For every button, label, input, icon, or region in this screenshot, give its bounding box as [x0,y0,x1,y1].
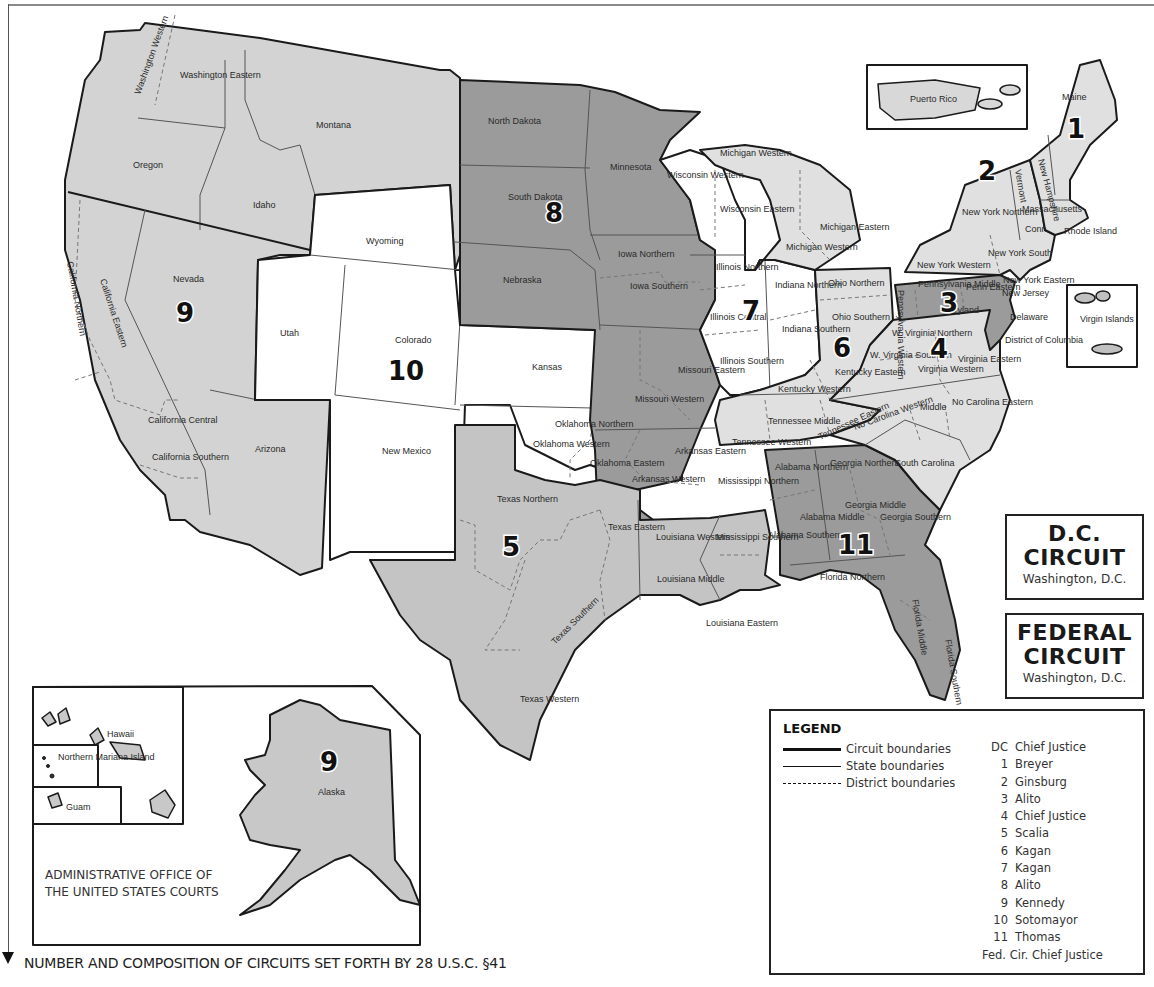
label-oh-n: Ohio Northern [828,278,885,288]
label-ca-c: California Central [148,415,218,425]
label-kansas: Kansas [532,362,563,372]
label-pr: Puerto Rico [910,94,957,104]
publisher-credit: ADMINISTRATIVE OFFICE OF THE UNITED STAT… [45,867,219,901]
label-ca-s: California Southern [152,452,229,462]
label-montana: Montana [316,120,351,130]
label-nebraska: Nebraska [503,275,542,285]
label-mi-w: Michigan Western [720,148,792,158]
label-nd: North Dakota [488,116,541,126]
label-ia-n: Iowa Northern [618,249,675,259]
label-fl-n: Florida Northern [820,572,885,582]
label-nevada: Nevada [173,274,204,284]
label-mo-w: Missouri Western [635,394,704,404]
label-sc: South Carolina [895,458,955,468]
label-mi-w2: Michigan Western [786,242,858,252]
legend-line-label: District boundaries [846,776,955,790]
federal-circuit-title-2: CIRCUIT [1007,645,1142,669]
dc-circuit-title-1: D.C. [1007,522,1142,546]
justice-row: 3Alito [982,791,1103,808]
label-al-s: Alabama Southern [768,530,843,540]
label-mi-e: Michigan Eastern [820,222,890,232]
thin-line-swatch [783,766,841,767]
circuit-number-10: 10 [388,356,424,386]
federal-circuit-box: FEDERAL CIRCUIT Washington, D.C. [1005,613,1144,699]
justice-list: DCChief Justice 1Breyer 2Ginsburg 3Alito… [982,739,1103,964]
label-colorado: Colorado [395,335,432,345]
label-il-n: Illinois Northern [716,262,779,272]
label-ky-e: Kentucky Eastern [835,367,906,377]
label-ri: Rhode Island [1064,226,1117,236]
label-ia-s: Iowa Southern [630,281,688,291]
label-minnesota: Minnesota [610,162,652,172]
label-il-s: Illinois Southern [720,356,784,366]
circuit-number-1: 1 [1067,114,1085,144]
dc-circuit-box: D.C. CIRCUIT Washington, D.C. [1005,514,1144,600]
legend-box: LEGEND Circuit boundaries State boundari… [769,709,1145,975]
federal-circuit-location: Washington, D.C. [1007,671,1142,685]
justice-row: 6Kagan [982,843,1103,860]
label-conn: Conn. [1025,224,1049,234]
thick-line-swatch [783,748,841,751]
justice-row: 7Kagan [982,860,1103,877]
label-utah: Utah [280,328,299,338]
label-la-e: Louisiana Eastern [706,618,778,628]
label-nmi: Northern Mariana Island [58,752,155,762]
label-pa-w: Pennsylvania Western [896,290,906,379]
justice-row: 11Thomas [982,929,1103,946]
label-la-m: Louisiana Middle [657,574,725,584]
label-ms-n: Mississippi Northern [718,476,799,486]
label-new-mexico: New Mexico [382,446,431,456]
footer-note: NUMBER AND COMPOSITION OF CIRCUITS SET F… [24,955,507,971]
justice-row: 9Kennedy [982,895,1103,912]
label-maine: Maine [1062,92,1087,102]
federal-circuit-title-1: FEDERAL [1007,621,1142,645]
legend-circuit-boundaries: Circuit boundaries [783,742,951,756]
label-hawaii: Hawaii [107,729,134,739]
label-tn-w: Tennessee Western [732,437,811,447]
label-ny-w: New York Western [917,260,991,270]
label-wi-e: Wisconsin Eastern [720,204,795,214]
legend-state-boundaries: State boundaries [783,759,944,773]
legend-line-label: Circuit boundaries [846,742,951,756]
justice-row: 10Sotomayor [982,912,1103,929]
label-ny-s: New York South [988,248,1052,258]
label-dc: District of Columbia [1005,335,1083,345]
justice-row: 2Ginsburg [982,774,1103,791]
dashed-line-swatch [783,783,841,784]
circuit-number-8: 8 [545,198,563,228]
justice-row: 8Alito [982,877,1103,894]
dc-circuit-title-2: CIRCUIT [1007,546,1142,570]
label-nc-m: Middle [920,402,947,412]
label-ok-e: Oklahoma Eastern [590,458,665,468]
circuit-number-11: 11 [838,530,874,560]
circuit-number-9: 9 [176,298,194,328]
label-de: Delaware [1010,312,1048,322]
legend-title: LEGEND [783,721,841,736]
label-ky-w: Kentucky Western [778,384,851,394]
publisher-line-2: THE UNITED STATES COURTS [45,884,219,901]
label-ok-w: Oklahoma Western [533,439,610,449]
circuit-number-6: 6 [833,333,851,363]
label-al-m: Alabama Middle [800,512,865,522]
justice-row: DCChief Justice [982,739,1103,756]
label-tx-w: Texas Western [520,694,579,704]
label-ga-m: Georgia Middle [845,500,906,510]
circuit-number-9-alaska: 9 [320,747,338,777]
legend-district-boundaries: District boundaries [783,776,955,790]
publisher-line-1: ADMINISTRATIVE OFFICE OF [45,867,219,884]
label-wa-e: Washington Eastern [180,70,261,80]
label-tx-e: Texas Eastern [608,522,665,532]
label-va-w: Virginia Western [918,364,984,374]
label-wyoming: Wyoming [366,236,403,246]
circuit-number-4: 4 [930,334,948,364]
circuit-number-3: 3 [940,288,958,318]
label-mo-e: Missouri Eastern [678,365,745,375]
justice-row: 4Chief Justice [982,808,1103,825]
label-ar-e: Arkansas Eastern [675,446,746,456]
label-arizona: Arizona [255,444,286,454]
label-va-e: Virginia Eastern [958,354,1021,364]
label-ga-n: Georgia Northern [830,458,900,468]
circuit-number-7: 7 [742,296,760,326]
circuit-number-5: 5 [502,532,520,562]
label-tn-m: Tennessee Middle [768,416,841,426]
